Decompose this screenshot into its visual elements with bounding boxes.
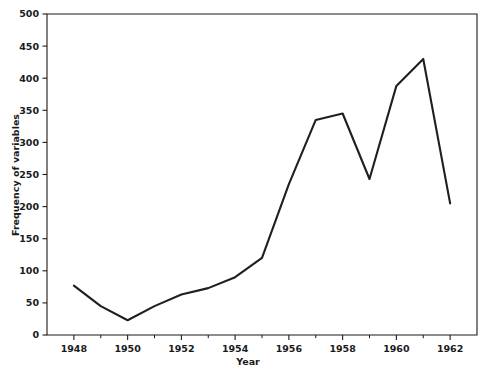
chart-canvas: 050100150200250300350400450500 194819501… (0, 0, 490, 373)
y-tick-label-400: 400 (19, 73, 39, 84)
x-tick-label-1962: 1962 (437, 343, 463, 354)
y-tick-label-250: 250 (19, 169, 39, 180)
x-tick-label-1960: 1960 (383, 343, 410, 354)
y-tick-label-150: 150 (19, 233, 39, 244)
y-tick-label-50: 50 (26, 297, 40, 308)
y-tick-label-350: 350 (19, 105, 39, 116)
y-axis-title: Frequency of variables (10, 114, 21, 236)
y-tick-label-300: 300 (19, 137, 39, 148)
y-tick-label-100: 100 (19, 265, 39, 276)
line-chart: 050100150200250300350400450500 194819501… (0, 0, 490, 373)
x-axis-title: Year (235, 356, 260, 367)
y-tick-label-500: 500 (19, 8, 39, 19)
x-tick-label-1950: 1950 (114, 343, 141, 354)
y-tick-label-200: 200 (19, 201, 39, 212)
x-tick-label-1952: 1952 (168, 343, 194, 354)
x-tick-label-1954: 1954 (222, 343, 249, 354)
x-tick-label-1956: 1956 (276, 343, 303, 354)
chart-background (0, 0, 490, 373)
y-tick-label-450: 450 (19, 41, 39, 52)
x-tick-label-1958: 1958 (329, 343, 356, 354)
y-tick-label-0: 0 (32, 329, 39, 340)
x-tick-label-1948: 1948 (61, 343, 88, 354)
